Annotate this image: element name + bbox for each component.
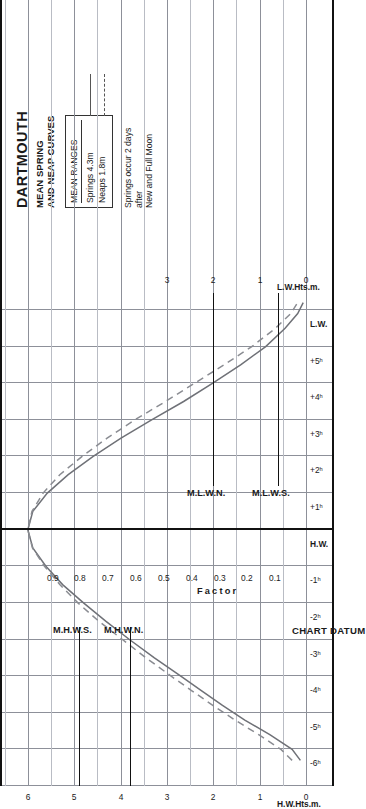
legend-key-springs-solid [85, 70, 97, 116]
note-line-2: after [134, 12, 145, 208]
datum-line [278, 293, 279, 486]
hw-height-tick-label: 5 [72, 792, 77, 802]
datum-line [130, 627, 131, 786]
legend-heading: MEAN RANGES [69, 120, 82, 203]
time-tick-label: +3ʰ [310, 429, 323, 439]
axis-bottom-border [332, 0, 334, 786]
factor-tick-label: 0.1 [269, 573, 281, 583]
hw-height-tick-label: 1 [257, 792, 262, 802]
curve-neaps [28, 303, 298, 761]
factor-tick-label: 0.5 [158, 573, 170, 583]
chart-datum-label: CHART DATUM [292, 625, 365, 636]
datum-label: M.H.W.S. [53, 625, 92, 635]
time-tick-label: +4ʰ [310, 392, 323, 402]
note-line-3: New and Full Moon [144, 12, 155, 208]
time-tick-label: -6ʰ [310, 758, 321, 768]
hw-height-tick-label: 3 [165, 792, 170, 802]
legend-key-lines [65, 70, 111, 116]
springs-note: Springs occur 2 days after New and Full … [123, 12, 155, 208]
datum-label: M.L.W.N. [187, 488, 225, 498]
lw-height-tick-label: 1 [257, 275, 262, 285]
hw-axis-title: H.W.Hts.m. [277, 799, 321, 809]
legend-key-neaps-dashed [99, 70, 111, 116]
time-tick-label: -4ʰ [310, 685, 321, 695]
time-tick-label: -5ʰ [310, 722, 321, 732]
axis-high-water-vertical [0, 528, 334, 530]
legend-row-springs: Springs 4.3m [84, 120, 96, 203]
chart-subtitle: MEAN SPRING AND NEAP CURVES [34, 12, 56, 208]
datum-label: M.L.W.S. [252, 488, 290, 498]
datum-line [213, 293, 214, 486]
legend-label-neaps: Neaps 1.8m [97, 120, 107, 203]
time-tick-label: L.W. [310, 319, 327, 329]
time-tick-label: +1ʰ [310, 502, 323, 512]
factor-axis-label: Factor [197, 586, 238, 596]
legend-label-springs: Springs 4.3m [85, 120, 95, 203]
plot-area: -6ʰ-5ʰ-4ʰ-3ʰ-2ʰ-1ʰH.W.+1ʰ+2ʰ+3ʰ+4ʰ+5ʰL.W… [0, 288, 306, 786]
datum-line [79, 627, 80, 786]
legend-box: MEAN RANGES Springs 4.3m Neaps 1.8m [65, 115, 113, 208]
lw-axis-title: L.W.Hts.m. [277, 282, 320, 292]
subtitle-line-1: MEAN SPRING [34, 12, 45, 208]
factor-tick-label: 0.9 [47, 573, 59, 583]
time-tick-label: -3ʰ [310, 649, 321, 659]
hw-height-tick-label: 4 [118, 792, 123, 802]
factor-tick-label: 0.2 [241, 573, 253, 583]
lw-height-tick-label: 3 [165, 275, 170, 285]
time-tick-label: H.W. [310, 539, 328, 549]
datum-label: M.H.W.N. [104, 625, 143, 635]
axis-top-border [0, 0, 2, 786]
factor-tick-label: 0.6 [130, 573, 142, 583]
curve-springs [28, 303, 303, 761]
time-tick-label: +2ʰ [310, 465, 323, 475]
factor-tick-label: 0.7 [102, 573, 114, 583]
factor-tick-label: 0.3 [214, 573, 226, 583]
gridline-horizontal [306, 0, 307, 786]
hw-height-tick-label: 2 [211, 792, 216, 802]
note-line-1: Springs occur 2 days [123, 12, 134, 208]
title-block: DARTMOUTH MEAN SPRING AND NEAP CURVES ME… [14, 12, 155, 208]
time-tick-label: +5ʰ [310, 356, 323, 366]
hw-height-tick-label: 6 [25, 792, 30, 802]
factor-tick-label: 0.4 [186, 573, 198, 583]
factor-tick-label: 0.8 [74, 573, 86, 583]
tide-curves [0, 288, 306, 786]
time-tick-label: -1ʰ [310, 575, 321, 585]
lw-height-tick-label: 2 [211, 275, 216, 285]
time-tick-label: -2ʰ [310, 612, 321, 622]
